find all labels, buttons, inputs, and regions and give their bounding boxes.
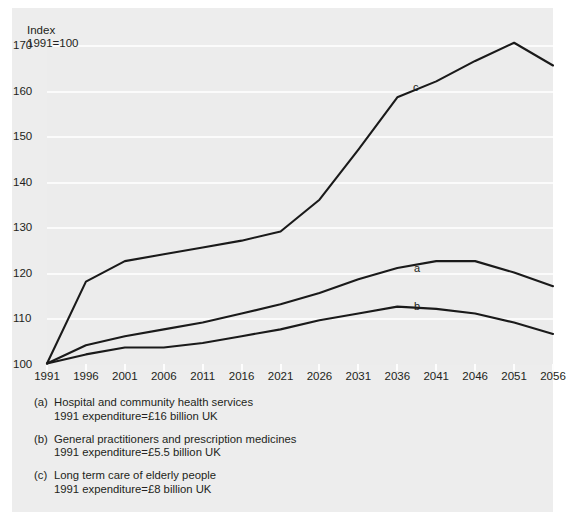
legend: (a) Hospital and community health servic… xyxy=(34,396,364,506)
legend-item-b: (b) General practitioners and prescripti… xyxy=(34,433,364,461)
legend-title-a: Hospital and community health services xyxy=(54,396,253,408)
legend-detail-c: 1991 expenditure=£8 billion UK xyxy=(54,483,364,497)
legend-item-c: (c) Long term care of elderly people 199… xyxy=(34,469,364,497)
series-inline-label-a: a xyxy=(414,262,420,274)
legend-text-b: General practitioners and prescription m… xyxy=(54,433,364,461)
series-line-b xyxy=(47,307,553,364)
series-line-c xyxy=(47,43,553,364)
legend-text-c: Long term care of elderly people 1991 ex… xyxy=(54,469,364,497)
legend-key-c: (c) xyxy=(34,469,54,497)
legend-detail-b: 1991 expenditure=£5.5 billion UK xyxy=(54,446,364,460)
legend-detail-a: 1991 expenditure=£16 billion UK xyxy=(54,410,364,424)
series-inline-label-c: c xyxy=(413,81,419,93)
chart-figure: Index 1991=100 170 160 150 140 130 120 1… xyxy=(0,0,570,529)
legend-text-a: Hospital and community health services 1… xyxy=(54,396,364,424)
legend-key-a: (a) xyxy=(34,396,54,424)
legend-title-b: General practitioners and prescription m… xyxy=(54,433,296,445)
legend-key-b: (b) xyxy=(34,433,54,461)
legend-title-c: Long term care of elderly people xyxy=(54,469,216,481)
legend-item-a: (a) Hospital and community health servic… xyxy=(34,396,364,424)
series-inline-label-b: b xyxy=(414,300,420,312)
